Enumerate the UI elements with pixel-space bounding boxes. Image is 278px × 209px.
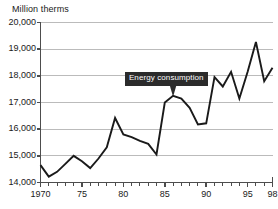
y-tick-label: 19,000 [0,43,36,53]
plot-area [0,0,278,209]
x-tick-label: 80 [118,189,128,199]
callout-pointer [170,86,176,97]
y-tick-label: 18,000 [0,70,36,80]
y-tick-label: 15,000 [0,150,36,160]
y-tick-label: 16,000 [0,123,36,133]
x-tick-label: 90 [201,189,211,199]
series-callout-text: Energy consumption [129,73,204,82]
x-tick-label: 1970 [30,189,50,199]
x-tick-label: 95 [243,189,253,199]
y-tick-label: 20,000 [0,17,36,27]
y-tick-label: 17,000 [0,97,36,107]
x-tick-label: 75 [77,189,87,199]
data-line-energy-consumption [41,42,273,177]
energy-consumption-chart: Million therms Energy consumption 20,000… [0,0,278,209]
x-tick-label: 85 [160,189,170,199]
y-tick-label: 14,000 [0,177,36,187]
series-callout-label: Energy consumption [125,72,208,86]
x-tick-label: 98 [267,189,277,199]
